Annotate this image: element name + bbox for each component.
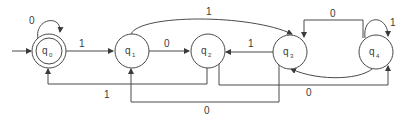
svg-text:0: 0 bbox=[164, 38, 170, 49]
transition-q3-q1: 0 bbox=[131, 64, 279, 116]
svg-text:1: 1 bbox=[248, 38, 254, 49]
state-q3[interactable]: q 3 bbox=[273, 35, 307, 69]
transition-q3-q2: 1 bbox=[226, 38, 273, 52]
svg-text:q: q bbox=[283, 46, 289, 57]
svg-text:q: q bbox=[369, 46, 375, 57]
transition-q4-q3-top: 0 bbox=[304, 8, 363, 38]
state-q4[interactable]: q 4 bbox=[359, 35, 393, 69]
svg-text:0: 0 bbox=[29, 15, 35, 26]
transition-q4-q3-curve bbox=[291, 66, 375, 78]
svg-text:1: 1 bbox=[79, 38, 85, 49]
svg-text:1: 1 bbox=[104, 89, 110, 100]
svg-text:q: q bbox=[125, 45, 131, 56]
state-q0[interactable]: q 0 bbox=[32, 34, 66, 68]
svg-text:1: 1 bbox=[390, 17, 396, 28]
svg-text:q: q bbox=[42, 45, 48, 56]
svg-text:0: 0 bbox=[330, 8, 336, 19]
state-q2[interactable]: q 2 bbox=[191, 34, 225, 68]
transition-q1-q2: 0 bbox=[149, 38, 189, 51]
svg-text:q: q bbox=[201, 45, 207, 56]
state-q1[interactable]: q 1 bbox=[115, 34, 149, 68]
transition-q0-q1: 1 bbox=[65, 38, 113, 51]
svg-text:1: 1 bbox=[206, 6, 212, 17]
transition-q1-q3: 1 bbox=[131, 6, 292, 34]
state-diagram: 0 1 0 1 1 0 1 1 0 0 bbox=[0, 0, 403, 119]
transition-q4-q4: 1 bbox=[365, 17, 396, 38]
transition-q2-q4: 0 bbox=[219, 64, 388, 98]
svg-text:0: 0 bbox=[204, 105, 210, 116]
transition-q2-q0: 1 bbox=[48, 68, 207, 100]
svg-text:0: 0 bbox=[306, 87, 312, 98]
